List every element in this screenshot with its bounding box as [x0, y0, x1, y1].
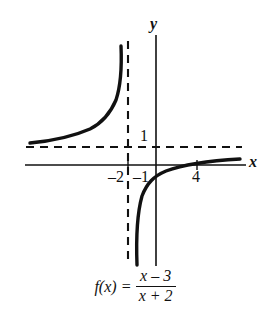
function-expression: f(x) = x – 3 x + 2: [94, 268, 175, 305]
fraction: x – 3 x + 2: [136, 268, 176, 305]
y-axis-label: y: [150, 16, 157, 32]
function-caption: f(x) = x – 3 x + 2: [0, 268, 270, 305]
fraction-numerator: x – 3: [137, 268, 174, 285]
rational-function-figure: y x –2 –1 4 1 f(x) = x – 3 x + 2: [0, 0, 270, 314]
curve-right-branch: [137, 159, 240, 265]
curve-left-branch: [30, 46, 121, 143]
function-name: f(x): [94, 278, 116, 296]
x-tick-label-neg-one: –1: [133, 169, 149, 185]
graph-canvas: [0, 0, 270, 314]
equals-sign: =: [121, 278, 132, 296]
x-tick-label-neg-two: –2: [108, 169, 124, 185]
x-tick-label-four: 4: [192, 169, 200, 185]
x-axis-label: x: [249, 154, 257, 170]
fraction-denominator: x + 2: [136, 288, 176, 305]
y-tick-label-one: 1: [140, 128, 148, 144]
